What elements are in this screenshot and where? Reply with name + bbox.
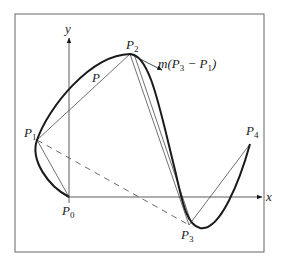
label-p1: P1 (23, 125, 36, 142)
svg-text:P0: P0 (61, 203, 75, 220)
diagram-frame (15, 14, 264, 252)
svg-text:P2: P2 (125, 37, 138, 54)
svg-text:P1: P1 (23, 125, 36, 142)
spline-diagram: y x P0 P1 P2 P3 P4 P m(P3 − P1) (0, 0, 284, 261)
x-axis-label: x (265, 189, 272, 204)
svg-text:m(P3 − P1): m(P3 − P1) (158, 56, 216, 73)
y-axis-label: y (63, 21, 71, 36)
svg-text:P3: P3 (180, 227, 194, 244)
svg-text:P4: P4 (245, 123, 259, 140)
curve-label: P (91, 70, 100, 85)
dashed-p1-p3 (37, 140, 189, 225)
label-p3: P3 (180, 227, 194, 244)
tangent-label: m(P3 − P1) (158, 56, 216, 73)
label-p0: P0 (61, 203, 75, 220)
label-p2: P2 (125, 37, 138, 54)
label-p4: P4 (245, 123, 259, 140)
